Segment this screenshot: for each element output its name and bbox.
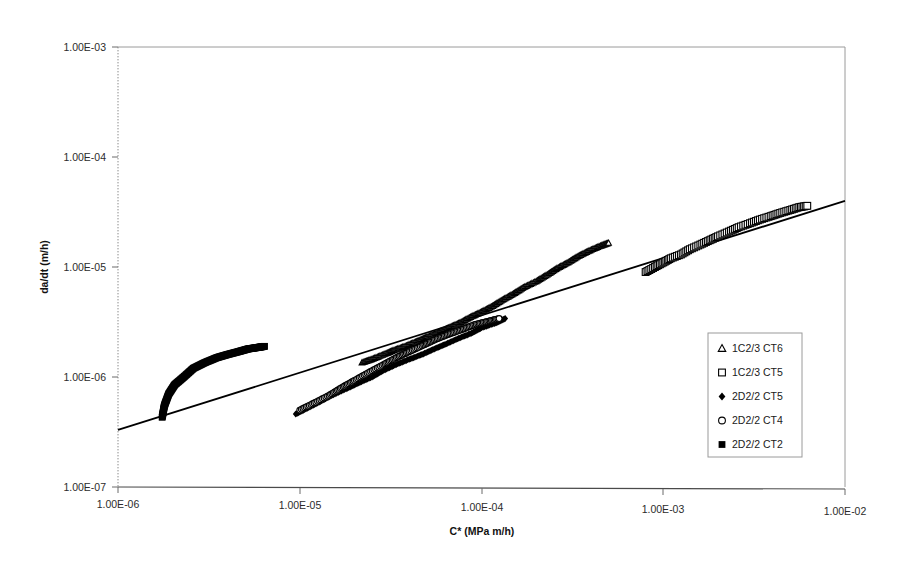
marker-open-square — [804, 202, 811, 209]
y-tick-label-1e-6: 1.00E-06 — [63, 371, 106, 383]
marker-open-square — [719, 369, 726, 376]
x-tick-label-1e-6: 1.00E-06 — [97, 498, 140, 510]
chart-background — [0, 0, 903, 565]
y-tick-label-1e-3: 1.00E-03 — [63, 41, 106, 53]
chart-figure: 1.00E-03 1.00E-04 1.00E-05 1.00E-06 1.00… — [0, 0, 903, 565]
marker-open-circle — [496, 316, 502, 322]
legend-label-2: 2D2/2 CT5 — [732, 390, 783, 402]
y-tick-label-1e-5: 1.00E-05 — [63, 261, 106, 273]
x-tick-label-1e-2: 1.00E-02 — [824, 505, 867, 517]
y-axis-title: da/dt (m/h) — [38, 240, 50, 294]
legend-label-4: 2D2/2 CT2 — [732, 438, 783, 450]
legend-label-1: 1C2/3 CT5 — [732, 366, 783, 378]
marker-filled-square — [261, 343, 268, 350]
legend-label-0: 1C2/3 CT6 — [732, 342, 783, 354]
x-axis-title: C* (MPa m/h) — [450, 525, 515, 537]
x-tick-label-1e-3: 1.00E-03 — [642, 503, 685, 515]
y-tick-label-1e-4: 1.00E-04 — [63, 151, 106, 163]
x-tick-label-1e-5: 1.00E-05 — [279, 499, 322, 511]
legend-label-3: 2D2/2 CT4 — [732, 414, 783, 426]
marker-filled-square — [719, 441, 726, 448]
y-tick-label-1e-7: 1.00E-07 — [63, 481, 106, 493]
creep-crack-growth-chart: 1.00E-03 1.00E-04 1.00E-05 1.00E-06 1.00… — [0, 0, 903, 565]
x-tick-label-1e-4: 1.00E-04 — [461, 501, 504, 513]
legend[interactable]: 1C2/3 CT61C2/3 CT52D2/2 CT52D2/2 CT42D2/… — [708, 333, 802, 457]
marker-open-circle — [719, 417, 726, 424]
